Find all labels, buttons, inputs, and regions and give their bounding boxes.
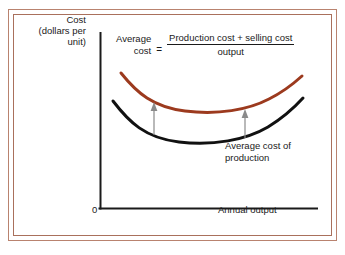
formula-denominator: output	[218, 45, 244, 57]
average-cost-of-production-label: Average cost of production	[225, 140, 317, 164]
black-curve-label-line1: Average cost of	[225, 140, 291, 151]
average-cost-curve	[121, 73, 302, 112]
y-axis-label-line1: Cost	[66, 14, 86, 25]
formula-lhs-line1: Average	[116, 33, 151, 44]
formula-lhs-line2: cost	[134, 45, 151, 56]
x-axis-label: Annual output	[218, 204, 277, 215]
y-axis-label: Cost (dollars per unit)	[0, 14, 86, 48]
formula-numerator: Production cost + selling cost	[167, 32, 294, 44]
average-cost-formula: Average cost = Production cost + selling…	[116, 32, 294, 57]
gap-arrow-right	[242, 109, 249, 138]
origin-label: 0	[92, 204, 97, 215]
figure-root: Cost (dollars per unit) 0 Annual output …	[0, 0, 345, 255]
average-cost-of-production-curve	[113, 98, 303, 143]
gap-arrow-left	[151, 102, 158, 135]
black-curve-label-line2: production	[225, 152, 269, 163]
formula-fraction: Production cost + selling cost output	[167, 32, 294, 57]
formula-equals-sign: =	[156, 35, 162, 55]
y-axis-label-line3: unit)	[68, 36, 86, 47]
y-axis-label-line2: (dollars per	[38, 25, 86, 36]
formula-left-hand-side: Average cost	[116, 33, 151, 56]
